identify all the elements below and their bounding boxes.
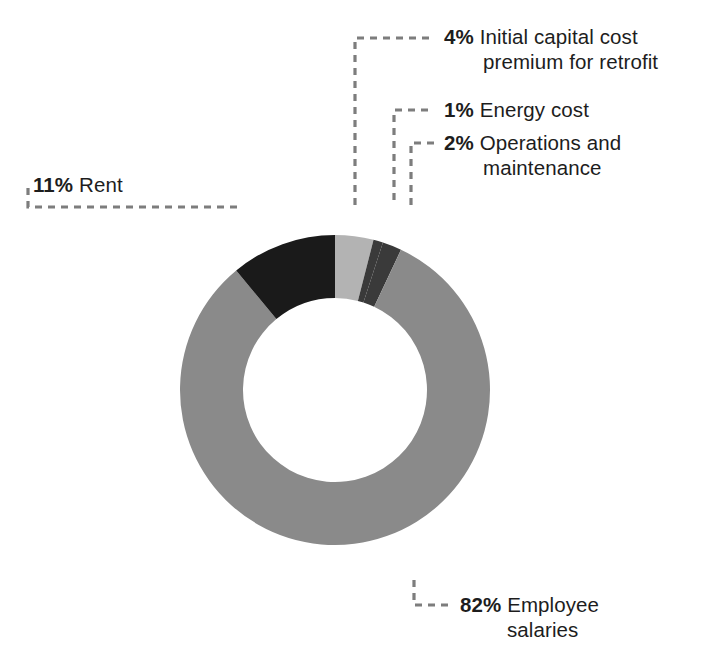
callout-label-continued: salaries [460, 617, 599, 642]
leader-line-om [411, 143, 434, 205]
callout-percent: 4% [444, 25, 474, 48]
callout-label: Operations and [480, 131, 622, 154]
callout-employee-salaries: 82% Employee salaries [460, 592, 599, 642]
callout-initial-capital-cost: 4% Initial capital cost premium for retr… [444, 24, 658, 74]
callout-rent: 11% Rent [33, 172, 123, 197]
callout-energy-cost: 1% Energy cost [444, 97, 589, 122]
callout-label: Energy cost [480, 98, 589, 121]
leader-line-energy [394, 110, 434, 200]
callout-label-continued: premium for retrofit [444, 49, 658, 74]
callout-percent: 2% [444, 131, 474, 154]
donut-slices [180, 235, 490, 545]
callout-operations-and-maintenance: 2% Operations and maintenance [444, 130, 621, 180]
callout-label-continued: maintenance [444, 155, 621, 180]
callout-percent: 1% [444, 98, 474, 121]
callout-percent: 11% [33, 173, 73, 196]
callout-label: Initial capital cost [480, 25, 638, 48]
donut-chart [0, 0, 716, 648]
callout-percent: 82% [460, 593, 501, 616]
clipped-caption [0, 640, 716, 648]
callout-label: Rent [79, 173, 123, 196]
chart-canvas: 4% Initial capital cost premium for retr… [0, 0, 716, 648]
callout-label: Employee [507, 593, 599, 616]
leader-line-salaries [414, 580, 452, 605]
